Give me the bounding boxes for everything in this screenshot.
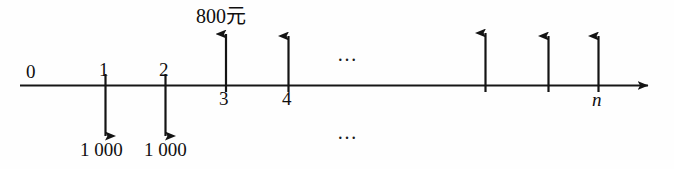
ellipsis-upper: …: [337, 44, 359, 64]
tick-label-n: n: [592, 90, 602, 109]
inflow-amount-label: 800元: [196, 6, 246, 26]
outflow-amount-label-period-2: 1 000: [144, 140, 187, 159]
tick-label-0: 0: [26, 62, 36, 81]
tick-label-1: 1: [99, 60, 109, 79]
tick-label-4: 4: [282, 89, 292, 108]
ellipsis-lower: …: [337, 122, 359, 142]
tick-label-2: 2: [159, 60, 169, 79]
tick-label-3: 3: [219, 89, 229, 108]
cash-flow-timeline-figure: 0 1 2 3 4 n 800元 1 000 1 000 … …: [0, 0, 674, 169]
outflow-amount-label-period-1: 1 000: [80, 140, 123, 159]
